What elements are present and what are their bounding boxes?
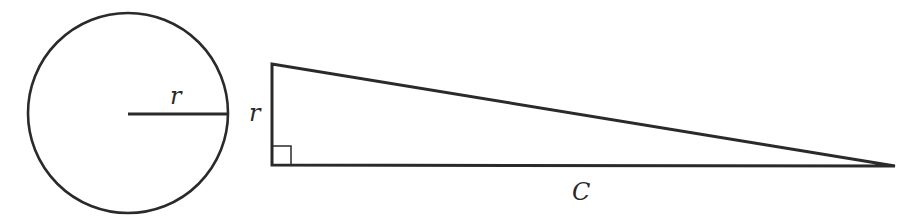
right-angle-marker <box>272 146 291 165</box>
circle-triangle-diagram: r r C <box>0 0 922 223</box>
radius-label: r <box>170 82 183 110</box>
right-triangle <box>272 64 895 166</box>
base-label: C <box>572 178 590 206</box>
circle-figure: r <box>28 13 229 213</box>
triangle-figure: r C <box>249 64 895 206</box>
height-label: r <box>249 99 262 127</box>
